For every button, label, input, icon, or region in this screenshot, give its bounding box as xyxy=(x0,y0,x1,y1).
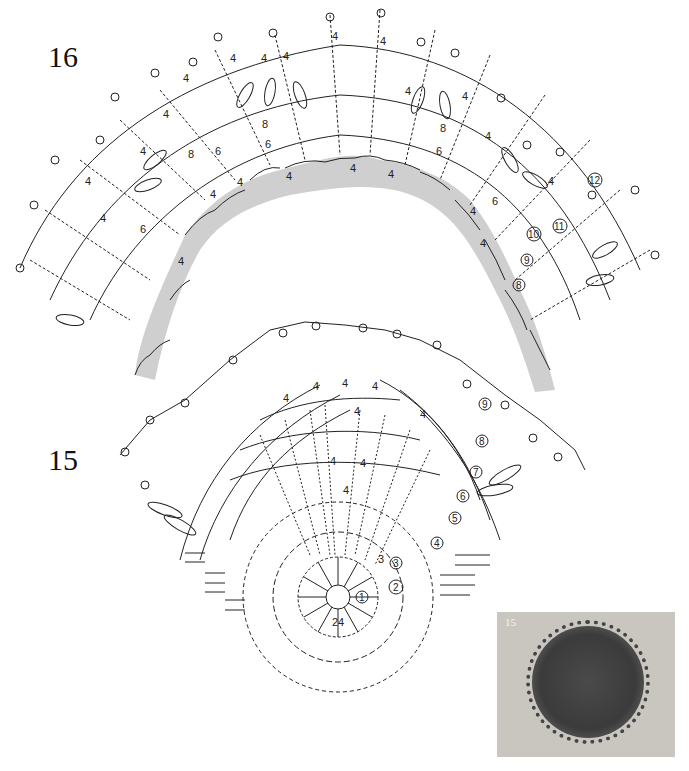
svg-text:4: 4 xyxy=(85,175,91,187)
shaded-base-rows xyxy=(135,156,555,392)
svg-text:4: 4 xyxy=(388,168,394,180)
svg-text:8: 8 xyxy=(262,118,268,130)
svg-text:4: 4 xyxy=(354,405,360,417)
center-stitch-count: 24 xyxy=(332,616,344,628)
svg-text:8: 8 xyxy=(188,148,194,160)
round-9-marker: 9 xyxy=(524,255,530,266)
svg-text:4: 4 xyxy=(420,408,426,420)
round-8-marker: 8 xyxy=(479,436,485,447)
round-9-marker: 9 xyxy=(482,399,488,410)
finished-doily-photo: 15 xyxy=(497,612,675,757)
svg-text:4: 4 xyxy=(548,175,554,187)
round-7-marker: 7 xyxy=(473,467,479,478)
svg-text:6: 6 xyxy=(265,138,271,150)
svg-text:4: 4 xyxy=(372,380,378,392)
svg-text:4: 4 xyxy=(480,237,486,249)
svg-text:6: 6 xyxy=(215,145,221,157)
svg-text:4: 4 xyxy=(470,205,476,217)
svg-text:4: 4 xyxy=(342,377,348,389)
svg-text:4: 4 xyxy=(343,484,349,496)
doily-image xyxy=(532,626,644,738)
svg-text:6: 6 xyxy=(140,223,146,235)
svg-text:6: 6 xyxy=(436,145,442,157)
round-11-marker: 11 xyxy=(554,221,565,232)
svg-text:4: 4 xyxy=(210,188,216,200)
svg-text:4: 4 xyxy=(163,108,169,120)
svg-text:4: 4 xyxy=(360,457,366,469)
svg-text:4: 4 xyxy=(230,52,236,64)
round-3-marker: 3 xyxy=(393,558,399,569)
svg-text:4: 4 xyxy=(380,35,386,47)
svg-text:6: 6 xyxy=(492,195,498,207)
svg-text:4: 4 xyxy=(332,30,338,42)
svg-text:4: 4 xyxy=(140,145,146,157)
svg-text:4: 4 xyxy=(100,212,106,224)
svg-text:8: 8 xyxy=(440,122,446,134)
svg-text:4: 4 xyxy=(462,90,468,102)
svg-text:4: 4 xyxy=(350,162,356,174)
svg-text:4: 4 xyxy=(178,255,184,267)
svg-text:4: 4 xyxy=(283,50,289,62)
svg-text:4: 4 xyxy=(313,380,319,392)
round-1-marker: 1 xyxy=(359,592,365,603)
round-8-marker: 8 xyxy=(516,280,522,291)
svg-text:4: 4 xyxy=(485,130,491,142)
svg-text:4: 4 xyxy=(283,392,289,404)
round-4-marker: 4 xyxy=(434,538,440,549)
figure-16-chart: 44 44 44 44 44 44 44 66 66 68 88 44 44 4… xyxy=(16,9,659,392)
svg-text:4: 4 xyxy=(261,52,267,64)
round-2-marker: 2 xyxy=(393,582,399,593)
round-10-marker: 10 xyxy=(528,229,540,240)
photo-caption: 15 xyxy=(505,616,516,628)
round-6-marker: 6 xyxy=(460,491,466,502)
svg-text:4: 4 xyxy=(237,176,243,188)
svg-text:4: 4 xyxy=(330,455,336,467)
svg-text:3: 3 xyxy=(378,553,384,565)
svg-text:4: 4 xyxy=(405,85,411,97)
round-12-marker: 12 xyxy=(589,175,601,186)
svg-text:4: 4 xyxy=(183,72,189,84)
svg-text:4: 4 xyxy=(286,170,292,182)
round-5-marker: 5 xyxy=(452,513,458,524)
